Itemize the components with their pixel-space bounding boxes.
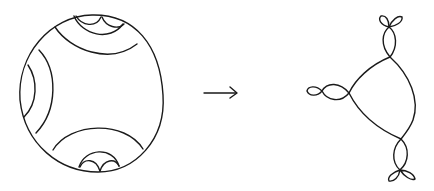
top-outer-arc <box>55 27 137 54</box>
diagram-canvas <box>0 0 434 191</box>
top-petal-right <box>389 17 402 27</box>
top-lens <box>383 27 395 57</box>
edge-left-bottom <box>349 93 401 139</box>
left-petal <box>307 87 322 95</box>
bottom-outer-arc <box>53 128 143 150</box>
left-outer-arc <box>36 50 53 133</box>
arrow-icon <box>204 87 237 98</box>
bottom-lens <box>394 139 408 170</box>
top-small-arc-right <box>102 17 124 27</box>
bottom-petal-right <box>400 170 415 179</box>
left-lens <box>322 84 349 99</box>
bottom-small-arc-left <box>80 161 100 171</box>
edge-top-bottom <box>390 57 415 139</box>
trivalent-graph <box>307 16 415 181</box>
top-petal-left <box>380 16 389 27</box>
left-inner-arc <box>24 65 35 117</box>
bottom-petal-left <box>389 170 400 181</box>
bottom-dome-arc <box>79 152 119 167</box>
edge-top-left <box>349 57 390 93</box>
top-small-arc-left <box>76 16 101 24</box>
disk-boundary <box>20 15 163 172</box>
hyperbolic-disk <box>20 15 163 172</box>
